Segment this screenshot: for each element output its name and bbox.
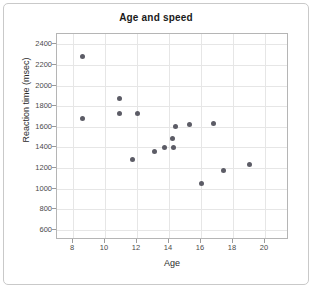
scatter-point — [135, 111, 140, 116]
x-tick-mark — [136, 239, 137, 243]
scatter-point — [199, 181, 204, 186]
scatter-point — [130, 157, 135, 162]
scatter-point — [170, 136, 175, 141]
gridline-horizontal — [57, 230, 287, 231]
scatter-point — [221, 168, 226, 173]
gridline-horizontal — [57, 65, 287, 66]
plot-area — [56, 33, 288, 239]
x-axis-label: Age — [56, 258, 288, 268]
y-tick-mark — [52, 43, 56, 44]
x-tick-label: 14 — [156, 243, 180, 252]
x-tick-label: 18 — [220, 243, 244, 252]
scatter-point — [117, 96, 122, 101]
y-tick-mark — [52, 208, 56, 209]
y-tick-mark — [52, 105, 56, 106]
x-tick-mark — [264, 239, 265, 243]
x-tick-label: 16 — [188, 243, 212, 252]
x-tick-mark — [72, 239, 73, 243]
y-tick-mark — [52, 146, 56, 147]
y-tick-label: 600 — [18, 224, 52, 233]
scatter-point — [247, 162, 252, 167]
gridline-horizontal — [57, 44, 287, 45]
x-tick-mark — [232, 239, 233, 243]
y-tick-mark — [52, 188, 56, 189]
y-tick-mark — [52, 167, 56, 168]
x-tick-mark — [200, 239, 201, 243]
x-tick-label: 10 — [92, 243, 116, 252]
gridline-horizontal — [57, 86, 287, 87]
x-tick-label: 8 — [60, 243, 84, 252]
gridline-vertical — [105, 34, 106, 238]
y-tick-mark — [52, 126, 56, 127]
chart-screenshot: Age and speed 60080010001200140016001800… — [0, 0, 312, 288]
scatter-point — [152, 149, 157, 154]
x-tick-mark — [168, 239, 169, 243]
y-tick-mark — [52, 64, 56, 65]
gridline-vertical — [73, 34, 74, 238]
x-tick-mark — [104, 239, 105, 243]
x-tick-label: 20 — [252, 243, 276, 252]
gridline-horizontal — [57, 127, 287, 128]
scatter-point — [117, 111, 122, 116]
y-axis-label: Reaction time (msec) — [21, 30, 31, 170]
y-tick-label: 1000 — [18, 183, 52, 192]
gridline-horizontal — [57, 209, 287, 210]
gridline-vertical — [265, 34, 266, 238]
scatter-point — [171, 145, 176, 150]
gridline-vertical — [201, 34, 202, 238]
gridline-horizontal — [57, 189, 287, 190]
gridline-horizontal — [57, 106, 287, 107]
scatter-point — [80, 54, 85, 59]
scatter-point — [211, 121, 216, 126]
scatter-point — [80, 116, 85, 121]
y-tick-label: 800 — [18, 204, 52, 213]
scatter-point — [162, 145, 167, 150]
x-axis-tick-labels: 8101214161820 — [56, 243, 288, 255]
gridline-vertical — [137, 34, 138, 238]
scatter-point — [173, 124, 178, 129]
chart-title: Age and speed — [0, 12, 312, 23]
y-tick-mark — [52, 85, 56, 86]
x-tick-label: 12 — [124, 243, 148, 252]
gridline-vertical — [233, 34, 234, 238]
y-tick-mark — [52, 229, 56, 230]
gridline-horizontal — [57, 168, 287, 169]
